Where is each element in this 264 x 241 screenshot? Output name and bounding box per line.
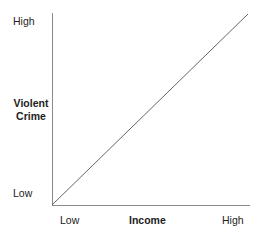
chart-figure: High Violent Crime Low Low Income High xyxy=(0,0,264,241)
y-axis-title-line-2: Crime xyxy=(12,110,50,123)
y-axis-title-line-1: Violent xyxy=(12,97,50,110)
x-axis-high-tick-label: High xyxy=(222,214,244,226)
plot-area xyxy=(52,13,250,206)
trend-line-svg xyxy=(52,13,250,206)
x-axis-low-tick-label: Low xyxy=(60,214,79,226)
y-axis-high-tick-label: High xyxy=(13,15,35,27)
y-axis-low-tick-label: Low xyxy=(13,187,32,199)
y-axis-title: Violent Crime xyxy=(12,97,50,123)
x-axis-title: Income xyxy=(129,214,166,226)
trend-line xyxy=(52,14,248,205)
